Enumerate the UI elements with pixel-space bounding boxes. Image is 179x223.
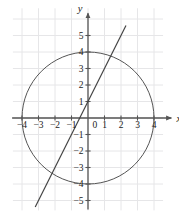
x-tick-label: 1 xyxy=(102,120,107,130)
x-tick-label: 4 xyxy=(152,120,157,130)
x-tick-label-origin: 0 xyxy=(93,120,98,130)
x-axis-name: x xyxy=(175,113,179,124)
y-tick-label: 5 xyxy=(79,31,84,41)
graph-canvas: −4−3−2−101234−5−4−3−2−112345xy xyxy=(0,0,179,223)
axes xyxy=(12,13,171,209)
y-tick-label: −4 xyxy=(73,179,83,189)
y-tick-label: −5 xyxy=(73,196,83,206)
x-tick-label: −1 xyxy=(66,120,76,130)
y-tick-label: 3 xyxy=(79,64,84,74)
x-tick-label: 3 xyxy=(135,120,140,130)
y-tick-label: −2 xyxy=(73,146,83,156)
y-tick-label: −1 xyxy=(73,130,83,140)
y-tick-label: 1 xyxy=(79,97,84,107)
y-axis-name: y xyxy=(77,3,83,14)
y-tick-label: 4 xyxy=(79,47,84,57)
y-tick-label: −3 xyxy=(73,163,83,173)
x-tick-label: −4 xyxy=(17,120,27,130)
axis-tick-labels: −4−3−2−101234−5−4−3−2−112345xy xyxy=(17,3,179,206)
x-tick-label: −3 xyxy=(33,120,43,130)
x-tick-label: 2 xyxy=(119,120,124,130)
y-tick-label: 2 xyxy=(79,80,84,90)
coordinate-plane-figure: −4−3−2−101234−5−4−3−2−112345xy xyxy=(0,0,179,223)
x-tick-label: −2 xyxy=(50,120,60,130)
